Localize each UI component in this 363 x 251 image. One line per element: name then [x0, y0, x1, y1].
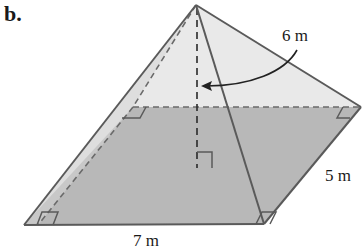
part-label: b. [4, 3, 22, 25]
front-base-edge [24, 224, 264, 225]
width-label: 5 m [325, 167, 351, 184]
height-label: 6 m [282, 27, 308, 44]
pyramid-diagram: b. 6 m 5 m 7 m [0, 0, 363, 251]
length-label: 7 m [133, 232, 159, 249]
pyramid-drawing [0, 0, 363, 251]
